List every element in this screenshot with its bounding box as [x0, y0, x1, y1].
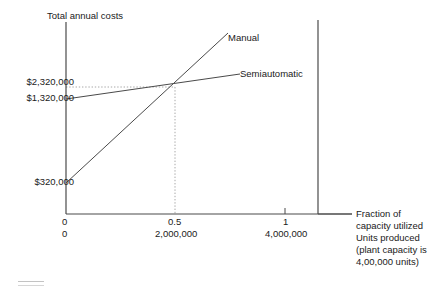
- x-tick-fraction-05: 0.5: [168, 216, 181, 227]
- y-tick-label-320000: $320,000: [12, 176, 74, 187]
- series-label-manual: Manual: [228, 32, 259, 43]
- y-axis-title: Total annual costs: [47, 10, 123, 21]
- x-tick-units-05: 2,000,000: [155, 228, 197, 239]
- x-tick-units-1: 4,000,000: [265, 228, 307, 239]
- x-axis-caption-line-1: Fraction of: [356, 208, 430, 220]
- series-label-semiautomatic: Semiautomatic: [240, 68, 303, 79]
- y-tick-label-1320000: $1,320,000: [12, 92, 74, 103]
- x-axis-caption-line-5: 4,00,000 units): [356, 256, 430, 268]
- y-tick-label-2320000: $2,320,000: [12, 76, 74, 87]
- x-axis-caption: Fraction of capacity utilized Units prod…: [356, 208, 430, 268]
- series-line-manual: [66, 33, 228, 183]
- x-axis-caption-line-2: capacity utilized: [356, 220, 430, 232]
- x-tick-fraction-0: 0: [62, 216, 67, 227]
- x-axis-caption-line-4: (plant capacity is: [356, 244, 430, 256]
- x-tick-units-0: 0: [62, 228, 67, 239]
- cost-comparison-chart: Total annual costs $2,320,000 $1,320,000…: [0, 0, 430, 292]
- page-edge-artifact: [18, 281, 44, 286]
- x-axis-caption-line-3: Units produced: [356, 232, 430, 244]
- x-tick-fraction-1: 1: [283, 216, 288, 227]
